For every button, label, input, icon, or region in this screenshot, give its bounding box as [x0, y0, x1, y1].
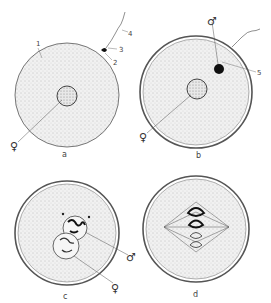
- centrosome: [88, 216, 90, 218]
- female-symbol: ♀: [111, 282, 119, 295]
- panel-label-b: b: [196, 151, 201, 160]
- centrosome: [62, 213, 64, 215]
- egg-nucleus: [57, 86, 77, 106]
- panel-a: 1 2 3 4 ♀ a: [10, 12, 133, 159]
- sperm-tail: [232, 29, 260, 47]
- female-symbol: ♀: [10, 140, 18, 153]
- female-pronucleus: [53, 233, 79, 259]
- panel-c: ♂ ♀ c: [15, 181, 136, 301]
- panel-b: ♂ 5 ♀ b: [139, 15, 261, 160]
- panel-label-d: d: [193, 290, 198, 299]
- panel-d: d: [143, 176, 249, 299]
- callout-2: 2: [113, 59, 117, 67]
- panel-label-c: c: [63, 292, 67, 301]
- female-symbol: ♀: [139, 131, 147, 144]
- male-symbol: ♂: [207, 15, 217, 28]
- callout-5: 5: [257, 69, 261, 77]
- callout-4: 4: [128, 30, 133, 38]
- sperm-nucleus: [214, 64, 224, 74]
- panel-label-a: a: [62, 150, 67, 159]
- fertilization-diagram: 1 2 3 4 ♀ a ♂ 5 ♀ b ♂ ♀ c: [0, 0, 271, 303]
- sperm-head: [101, 48, 107, 52]
- egg-cell: [146, 179, 246, 279]
- callout-3: 3: [119, 46, 123, 54]
- callout-1: 1: [36, 40, 40, 48]
- male-symbol: ♂: [126, 251, 136, 264]
